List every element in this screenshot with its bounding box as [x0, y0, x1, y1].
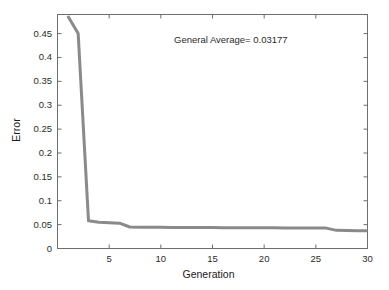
- x-tick-label: 30: [348, 253, 388, 264]
- y-tick-label: 0.1: [8, 195, 52, 206]
- y-tick-label: 0.05: [8, 219, 52, 230]
- y-tick-label: 0.35: [8, 75, 52, 86]
- y-axis-title: Error: [10, 100, 22, 160]
- y-tick-label: 0.15: [8, 171, 52, 182]
- plot-frame: [58, 15, 368, 249]
- x-tick-label: 20: [244, 253, 284, 264]
- figure-canvas: 00.050.10.150.20.250.30.350.40.45 510152…: [0, 0, 389, 290]
- y-tick-label: 0.45: [8, 28, 52, 39]
- general-average-annotation: General Average= 0.03177: [174, 34, 288, 45]
- x-tick-label: 15: [193, 253, 233, 264]
- x-tick-label: 25: [296, 253, 336, 264]
- x-axis-title: Generation: [14, 268, 389, 280]
- y-tick-label: 0.4: [8, 51, 52, 62]
- x-tick-label: 10: [141, 253, 181, 264]
- y-tick-label: 0: [8, 243, 52, 254]
- x-tick-label: 5: [89, 253, 129, 264]
